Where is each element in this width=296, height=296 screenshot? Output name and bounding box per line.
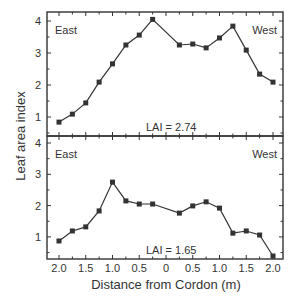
data-point-marker	[230, 231, 235, 236]
data-point-marker	[217, 35, 222, 40]
west-label: West	[252, 24, 277, 36]
east-label: East	[55, 24, 77, 36]
data-point-marker	[257, 72, 262, 77]
data-point-marker	[271, 80, 276, 85]
plot-frame	[47, 136, 283, 259]
x-tick-label: 0	[163, 262, 169, 274]
y-tick-label: 3	[35, 168, 41, 180]
y-tick-label: 2	[35, 79, 41, 91]
data-point-marker	[57, 238, 62, 243]
y-tick-label: 1	[35, 111, 41, 123]
x-tick-label: 1.5	[239, 262, 254, 274]
x-tick-label: 1.0	[105, 262, 120, 274]
data-point-marker	[70, 228, 75, 233]
data-point-marker	[244, 48, 249, 53]
data-point-marker	[57, 120, 62, 125]
data-point-marker	[271, 253, 276, 258]
data-point-marker	[110, 180, 115, 185]
data-point-marker	[83, 224, 88, 229]
data-line	[59, 19, 273, 122]
data-point-marker	[123, 43, 128, 48]
data-point-marker	[150, 202, 155, 207]
x-tick-label: 0.5	[132, 262, 147, 274]
data-point-marker	[70, 112, 75, 117]
data-point-marker	[97, 208, 102, 213]
x-tick-label: 2.0	[265, 262, 280, 274]
data-point-marker	[204, 45, 209, 50]
data-point-marker	[244, 228, 249, 233]
data-point-marker	[190, 203, 195, 208]
x-tick-label: 1.0	[212, 262, 227, 274]
y-tick-label: 1	[35, 231, 41, 243]
data-point-marker	[150, 17, 155, 22]
data-point-marker	[230, 24, 235, 29]
data-point-marker	[204, 199, 209, 204]
data-point-marker	[257, 233, 262, 238]
data-point-marker	[217, 206, 222, 211]
x-tick-label: 2.0	[51, 262, 66, 274]
data-point-marker	[137, 33, 142, 38]
y-tick-label: 2	[35, 200, 41, 212]
east-label: East	[55, 148, 77, 160]
lai-chart: 1234EastWestLAI = 2.741234EastWestLAI = …	[0, 0, 296, 296]
data-point-marker	[177, 211, 182, 216]
panel-bottom: 1234EastWestLAI = 1.65	[35, 136, 283, 259]
x-tick-label: 0.5	[185, 262, 200, 274]
data-point-marker	[190, 42, 195, 47]
west-label: West	[252, 148, 277, 160]
y-tick-label: 4	[35, 137, 41, 149]
y-tick-label: 4	[35, 15, 41, 27]
data-point-marker	[123, 198, 128, 203]
y-axis-title: Leaf area index	[13, 91, 28, 181]
x-tick-label: 1.5	[78, 262, 93, 274]
y-tick-label: 3	[35, 47, 41, 59]
lai-annotation: LAI = 1.65	[146, 244, 196, 256]
data-point-marker	[137, 202, 142, 207]
panel-top: 1234EastWestLAI = 2.74	[35, 12, 283, 136]
data-point-marker	[97, 80, 102, 85]
x-axis-title: Distance from Cordon (m)	[91, 277, 241, 292]
lai-annotation: LAI = 2.74	[146, 121, 196, 133]
data-point-marker	[83, 100, 88, 105]
data-point-marker	[110, 61, 115, 66]
data-point-marker	[177, 43, 182, 48]
